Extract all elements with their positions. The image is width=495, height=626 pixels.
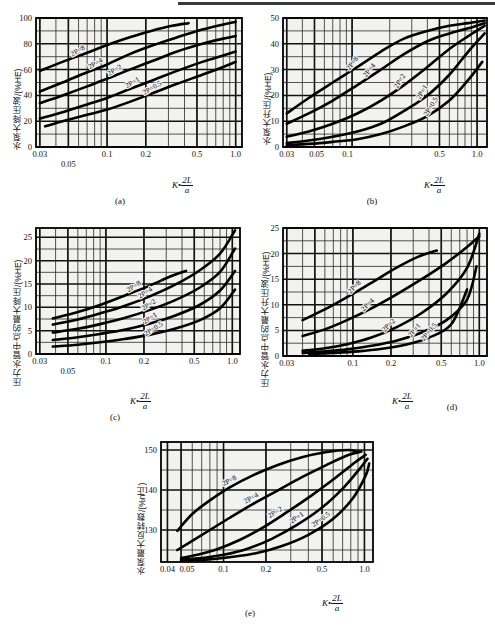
chart-b-xlabel-frac: 2La <box>433 176 445 196</box>
chart-b-xtick: 0.1 <box>342 149 353 159</box>
chart-a-caption: (a) <box>100 196 140 206</box>
chart-a-ytick: 60 <box>24 65 33 75</box>
chart-a-xtick: 0.2 <box>140 149 151 159</box>
chart-c-ytick: 20 <box>24 256 33 266</box>
chart-b-xtick: 1.0 <box>472 149 483 159</box>
chart-e-caption: (e) <box>230 608 270 618</box>
chart-d-caption: (d) <box>432 402 472 412</box>
chart-a-ytick: 100 <box>19 13 32 23</box>
chart-c-xtick: 0.05 <box>60 366 75 376</box>
chart-d-xlabel-den: a <box>401 402 413 411</box>
chart-panel-b: 2P=82P=82P=42P=42P=22P=22P=12P=12P=0.52P… <box>247 10 495 175</box>
chart-c-ytick: 10 <box>24 302 33 312</box>
chart-d-xlabel-frac: 2La <box>401 392 413 412</box>
chart-c-ylabel: 压力水管中点的最大降压/(%HE) <box>12 226 24 386</box>
chart-e-xtick: 0.2 <box>261 564 272 574</box>
chart-b-caption: (b) <box>352 196 392 206</box>
chart-c-ytick: 15 <box>24 279 33 289</box>
top-rule-divider <box>178 2 495 5</box>
chart-c-svg: 2P=82P=82P=42P=42P=22P=22P=12P=12P=0.52P… <box>0 218 248 386</box>
chart-a-xtick: 0.03 <box>32 149 47 159</box>
chart-c-xtick: 0.1 <box>101 356 112 366</box>
chart-panel-a: 2P=82P=82P=42P=42P=22P=22P=12P=12P=0.52P… <box>0 10 248 175</box>
chart-b-xlabel: K•2La <box>424 176 445 196</box>
chart-b-xtick: 0.03 <box>279 149 294 159</box>
figure-page: 2P=82P=82P=42P=42P=22P=22P=12P=12P=0.52P… <box>0 0 495 626</box>
chart-c-xtick: 0.03 <box>32 356 47 366</box>
chart-a-xlabel-den: a <box>181 186 193 195</box>
chart-e-xtick: 0.05 <box>180 564 195 574</box>
chart-c-xlabel: K•2La <box>130 392 151 412</box>
chart-c-xlabel-frac: 2La <box>139 392 151 412</box>
chart-a-ytick: 20 <box>24 116 33 126</box>
chart-a-ylabel: 水泵大降压波/(%HE) <box>12 30 24 150</box>
chart-panel-d: 2P=82P=82P=42P=42P=22P=22P=12P=12P=0.52P… <box>247 218 495 386</box>
chart-e-xlabel-frac: 2La <box>331 594 343 614</box>
chart-d-ylabel: 压力水管中点的最大升压波/(%HE) <box>260 222 272 387</box>
chart-d-svg: 2P=82P=82P=42P=42P=22P=22P=12P=12P=0.52P… <box>247 218 495 386</box>
chart-a-xlabel: K•2La <box>172 176 193 196</box>
chart-c-ytick: 25 <box>24 232 33 242</box>
chart-a-xtick: 0.05 <box>61 159 76 169</box>
chart-e-xlabel-den: a <box>331 604 343 613</box>
chart-e-svg: 2P=82P=82P=42P=42P=22P=22P=12P=12P=0.52P… <box>123 432 383 592</box>
chart-e-xlabel: K•2La <box>322 594 343 614</box>
chart-a-svg: 2P=82P=82P=42P=42P=22P=22P=12P=12P=0.52P… <box>0 10 248 175</box>
chart-d-xtick: 0.2 <box>386 358 397 368</box>
chart-e-xtick: 0.1 <box>218 564 229 574</box>
chart-c-xtick: 1.0 <box>227 356 238 366</box>
chart-b-xtick: 0.05 <box>309 149 324 159</box>
chart-a-ytick: 40 <box>24 90 33 100</box>
chart-b-xlabel-den: a <box>433 186 445 195</box>
chart-a-xtick: 0.1 <box>102 149 113 159</box>
chart-a-xtick: 0.5 <box>192 149 203 159</box>
chart-e-ylabel: 水泵最大反转数/(%n正) <box>136 450 148 575</box>
chart-d-xtick: 0.03 <box>279 358 294 368</box>
chart-c-xlabel-den: a <box>139 402 151 411</box>
chart-b-svg: 2P=82P=82P=42P=42P=22P=22P=12P=12P=0.52P… <box>247 10 495 175</box>
chart-c-xtick: 0.5 <box>189 356 200 366</box>
chart-a-xtick: 1.0 <box>230 149 241 159</box>
chart-panel-c: 2P=82P=82P=42P=42P=22P=22P=12P=12P=0.52P… <box>0 218 248 386</box>
chart-c-caption: (c) <box>95 412 135 422</box>
chart-e-xtick: 0.5 <box>317 564 328 574</box>
chart-d-xlabel: K•2La <box>392 392 413 412</box>
chart-b-ylabel: 水泵大升压/(%HE) <box>262 40 274 145</box>
chart-b-xtick: 0.5 <box>434 149 445 159</box>
chart-a-ytick: 80 <box>24 39 33 49</box>
chart-e-xtick: 0.04 <box>160 564 176 574</box>
chart-d-xtick: 1.0 <box>474 358 485 368</box>
chart-panel-e: 2P=82P=82P=42P=42P=22P=22P=12P=12P=0.52P… <box>123 432 383 592</box>
chart-a-ytick: 0 <box>28 142 32 152</box>
chart-b-ytick: 50 <box>271 13 280 23</box>
chart-a-xlabel-frac: 2La <box>181 176 193 196</box>
chart-d-xtick: 0.1 <box>348 358 359 368</box>
chart-c-ytick: 5 <box>28 326 32 336</box>
chart-e-xtick: 1.0 <box>359 564 370 574</box>
chart-d-ytick: 5 <box>275 325 279 335</box>
chart-d-xtick: 0.5 <box>436 358 447 368</box>
chart-c-xtick: 0.2 <box>139 356 150 366</box>
